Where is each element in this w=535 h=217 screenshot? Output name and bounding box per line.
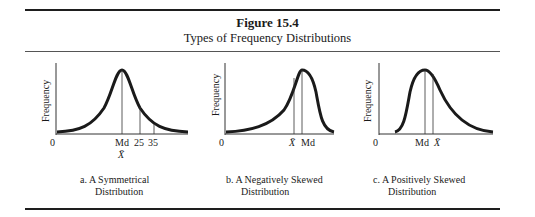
distribution-curve [395,70,493,132]
md-label: Md [301,137,315,148]
y-axis-label: Frequency [40,80,51,122]
label-25: 25 [134,137,144,148]
caption-b: b. A Negatively Skewed Distribution [226,174,323,198]
caption-letter: a. [80,174,87,185]
caption-line1: A Symmetrical [89,174,149,185]
origin-label: 0 [219,137,224,148]
panel-a-symmetric: Frequency 0 Md 25 35 X̄ [40,63,188,160]
distribution-curve [226,70,334,132]
caption-line2: Distribution [80,186,149,198]
mean-label: X̄ [117,149,125,160]
mean-label: X̄ [433,137,441,148]
caption-letter: b. [226,174,234,185]
mean-label: X̄ [288,137,296,148]
y-axis-label: Frequency [210,74,221,116]
caption-letter: c. [373,174,380,185]
y-axis-label: Frequency [362,80,373,122]
panel-b-negative-skew: Frequency 0 X̄ Md [210,63,334,148]
distribution-curve [57,70,188,132]
origin-label: 0 [50,137,55,148]
md-label: Md [115,137,129,148]
origin-label: 0 [373,137,378,148]
panel-c-positive-skew: Frequency 0 Md X̄ [362,63,493,148]
label-35: 35 [148,137,158,148]
caption-line2: Distribution [373,186,465,198]
md-label: Md [415,137,429,148]
caption-line1: A Positively Skewed [382,174,465,185]
caption-a: a. A Symmetrical Distribution [80,174,149,198]
caption-line2: Distribution [226,186,323,198]
caption-c: c. A Positively Skewed Distribution [373,174,465,198]
caption-line1: A Negatively Skewed [235,174,322,185]
bottom-rule [25,208,500,210]
